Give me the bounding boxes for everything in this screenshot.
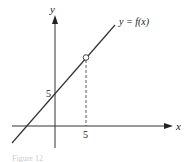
function-label: y = f(x) <box>118 16 150 28</box>
y-axis-label: y <box>49 3 55 15</box>
graph: y x y = f(x) 5 5 Figure 12 <box>0 0 191 162</box>
x-tick-label: 5 <box>83 129 88 140</box>
y-axis-arrow-icon <box>52 15 58 24</box>
figure: y x y = f(x) 5 5 Figure 12 <box>0 0 191 162</box>
open-point <box>83 55 89 61</box>
y-intercept-label: 5 <box>46 88 51 99</box>
x-axis-label: x <box>175 120 181 132</box>
function-line <box>12 25 115 143</box>
x-axis-arrow-icon <box>164 123 173 129</box>
caption: Figure 12 <box>12 154 43 162</box>
